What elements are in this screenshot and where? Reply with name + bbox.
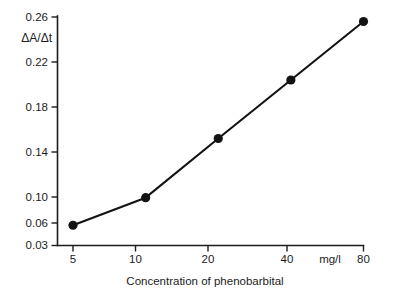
y-axis-title-delta-t: Δt [41,31,53,45]
x-axis-unit-label: mg/l [319,253,341,265]
x-tick-label-2: 20 [202,253,215,265]
y-axis-title: ΔA/Δt [21,31,52,45]
data-point [141,193,150,202]
x-tick-label-3: 40 [281,253,294,265]
data-point [359,17,368,26]
y-tick-label-2: 0.18 [26,101,48,113]
y-tick-label-0: 0.26 [26,11,48,23]
y-tick-label-3: 0.14 [26,146,49,158]
x-tick-label-1: 10 [129,253,142,265]
y-tick-label-1: 0.22 [26,56,48,68]
calibration-chart: 0.26 0.22 0.18 0.14 0.10 0.06 0.03 ΔA/Δt… [0,0,405,298]
y-axis-title-delta-a: ΔA [21,31,37,45]
y-tick-label-5: 0.06 [26,217,48,229]
x-axis-title: Concentration of phenobarbital [126,275,283,287]
data-point [68,221,77,230]
chart-canvas: 0.26 0.22 0.18 0.14 0.10 0.06 0.03 ΔA/Δt… [0,0,405,298]
x-tick-label-4: 80 [357,253,370,265]
data-point [286,75,295,84]
data-point [214,134,223,143]
x-tick-label-0: 5 [70,253,76,265]
y-tick-label-4: 0.10 [26,191,48,203]
y-tick-label-6: 0.03 [26,239,48,251]
